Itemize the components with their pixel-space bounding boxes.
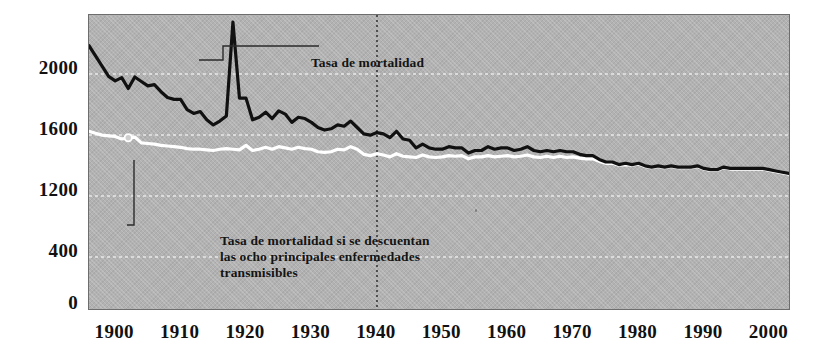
x-tick-label: 2000 — [749, 322, 788, 341]
annotation-tasa-de-mortalidad: Tasa de mortalidad — [311, 55, 424, 71]
data-point-marker — [125, 134, 132, 141]
y-axis-labels: 2000 1600 1200 400 0 — [0, 0, 78, 362]
x-tick-label: 1960 — [487, 322, 526, 341]
y-tick-label: 1600 — [4, 119, 78, 138]
annotation-leader-top — [199, 46, 319, 60]
x-tick-label: 1930 — [291, 322, 330, 341]
y-tick-label: 0 — [4, 293, 78, 312]
x-tick-label: 1980 — [618, 322, 657, 341]
annotation-leader-bottom — [127, 160, 134, 225]
gridlines — [89, 74, 789, 257]
x-tick-label: 1990 — [683, 322, 722, 341]
x-tick-label: 1940 — [356, 322, 395, 341]
plot-svg — [89, 15, 789, 309]
x-tick-label: 1900 — [95, 322, 134, 341]
print-speck — [475, 209, 477, 212]
y-tick-label: 2000 — [4, 58, 78, 77]
y-tick-label: 400 — [4, 241, 78, 260]
x-tick-label: 1910 — [160, 322, 199, 341]
plot-area: Tasa de mortalidad Tasa de mortalidad si… — [88, 14, 790, 310]
annotation-tasa-descontadas: Tasa de mortalidad si se descuentan las … — [220, 233, 430, 281]
x-axis-labels: 1900191019201930194019501960197019801990… — [88, 322, 790, 352]
x-tick-label: 1920 — [225, 322, 264, 341]
x-tick-label: 1970 — [552, 322, 591, 341]
y-tick-label: 1200 — [4, 180, 78, 199]
mortality-rate-chart: 2000 1600 1200 400 0 — [0, 0, 829, 362]
x-tick-label: 1950 — [422, 322, 461, 341]
